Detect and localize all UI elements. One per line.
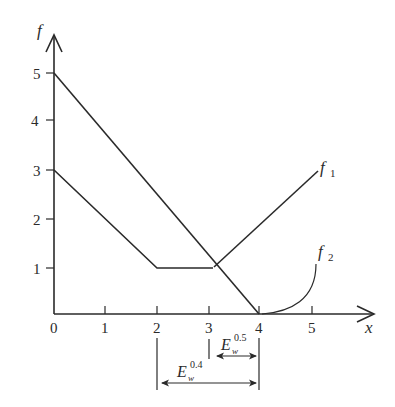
x-axis-label: x xyxy=(364,318,373,337)
Ew05-superscript: 0.5 xyxy=(234,332,247,343)
x-tick-4: 4 xyxy=(255,320,263,336)
curve-f2: f 2 xyxy=(54,170,334,314)
x-tick-5: 5 xyxy=(308,320,316,336)
y-tick-1: 1 xyxy=(33,261,41,277)
f2-label: f xyxy=(318,242,325,261)
Ew04-subscript: w xyxy=(188,373,194,383)
y-tick-3: 3 xyxy=(33,163,41,179)
x-tick-3: 3 xyxy=(205,320,213,336)
y-tick-4: 4 xyxy=(31,113,39,129)
annotation-dimension-lines xyxy=(157,338,259,390)
y-axis: f 1 2 3 4 5 xyxy=(31,21,62,314)
x-tick-1: 1 xyxy=(101,320,109,336)
f2-label-subscript: 2 xyxy=(328,251,334,263)
Ew05-main: E xyxy=(220,336,231,353)
annotation-Ew-0.4: E w 0.4 xyxy=(162,359,256,383)
f1-label-subscript: 1 xyxy=(330,167,336,179)
y-tick-5: 5 xyxy=(33,66,41,82)
y-tick-2: 2 xyxy=(33,212,41,228)
x-tick-0: 0 xyxy=(50,320,58,336)
f1-label: f xyxy=(320,158,327,177)
Ew04-main: E xyxy=(176,363,187,380)
Ew05-subscript: w xyxy=(232,346,238,356)
annotation-Ew-0.5: E w 0.5 xyxy=(217,332,256,356)
curve-f1: f 1 xyxy=(54,73,336,314)
y-axis-label: f xyxy=(37,21,44,40)
diagram-figure: f 1 2 3 4 5 x 0 1 2 3 4 5 f 1 xyxy=(0,0,395,407)
x-axis: x 0 1 2 3 4 5 xyxy=(50,306,374,337)
Ew04-superscript: 0.4 xyxy=(190,359,203,370)
x-tick-2: 2 xyxy=(153,320,161,336)
